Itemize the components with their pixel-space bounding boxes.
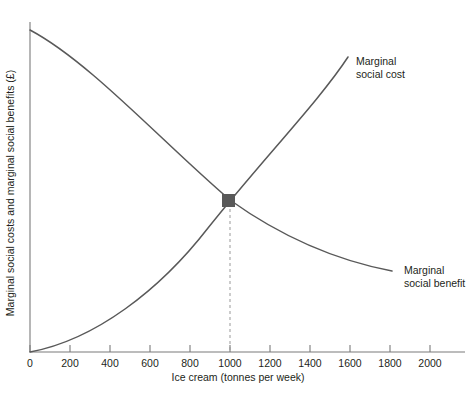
x-tick-label-1200: 1200 — [258, 357, 281, 369]
x-tick-label-1600: 1600 — [338, 357, 361, 369]
x-tick-label-400: 400 — [101, 357, 119, 369]
x-tick-label-2000: 2000 — [418, 357, 441, 369]
x-tick-label-1000: 1000 — [218, 357, 241, 369]
msb-label-line1: Marginal — [404, 264, 465, 277]
y-axis-title: Marginal social costs and marginal socia… — [4, 23, 16, 363]
msc-label-line1: Marginal — [356, 55, 405, 68]
marginal-social-benefit-label: Marginal social benefit — [404, 264, 465, 290]
x-tick-label-1400: 1400 — [298, 357, 321, 369]
equilibrium-point-marker — [222, 194, 235, 207]
msc-label-line2: social cost — [356, 68, 405, 81]
x-tick-label-800: 800 — [181, 357, 199, 369]
marginal-social-benefit-curve — [30, 30, 392, 271]
marginal-social-cost-curve — [30, 57, 348, 352]
x-tick-label-1800: 1800 — [378, 357, 401, 369]
chart-figure: 0 200 400 600 800 1000 1200 1400 1600 18… — [0, 0, 476, 393]
marginal-social-cost-label: Marginal social cost — [356, 55, 405, 81]
msb-label-line2: social benefit — [404, 277, 465, 290]
x-axis-title: Ice cream (tonnes per week) — [171, 371, 304, 383]
x-tick-label-200: 200 — [61, 357, 79, 369]
x-tick-label-0: 0 — [27, 357, 33, 369]
x-tick-label-600: 600 — [141, 357, 159, 369]
